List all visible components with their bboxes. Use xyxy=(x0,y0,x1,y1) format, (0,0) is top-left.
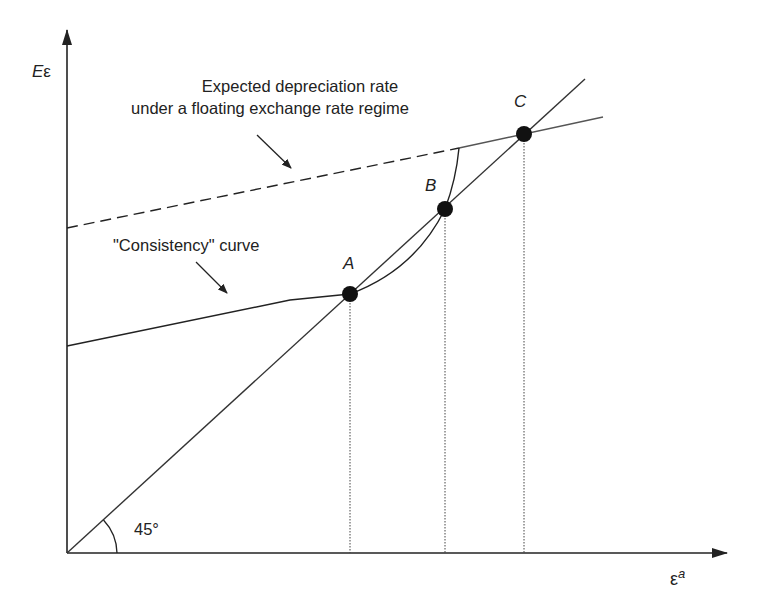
y-axis-label-e: E xyxy=(32,62,43,81)
x-axis-label-epsilon: ε xyxy=(670,569,678,589)
point-c-label: C xyxy=(514,92,526,112)
point-a xyxy=(342,286,358,302)
angle-arc xyxy=(104,520,118,553)
floating-rate-line-dashed xyxy=(67,148,459,228)
angle-label: 45° xyxy=(134,520,159,539)
forty-five-degree-line xyxy=(67,79,585,553)
y-axis-label: Eε xyxy=(32,62,51,82)
x-axis-label-superscript: a xyxy=(678,566,685,581)
floating-label-arrow xyxy=(257,135,291,168)
point-b-label: B xyxy=(425,176,436,196)
consistency-curve-label: "Consistency" curve xyxy=(113,236,260,255)
point-b xyxy=(437,201,453,217)
floating-rate-label: Expected depreciation rate under a float… xyxy=(90,75,450,119)
y-axis-label-epsilon: ε xyxy=(43,62,51,81)
consistency-label-arrow xyxy=(196,262,227,293)
point-a-label: A xyxy=(343,254,354,274)
point-c xyxy=(516,126,532,142)
floating-rate-label-line2: under a floating exchange rate regime xyxy=(90,97,450,119)
x-axis-label: εa xyxy=(670,566,685,590)
floating-rate-label-line1: Expected depreciation rate xyxy=(90,75,450,97)
